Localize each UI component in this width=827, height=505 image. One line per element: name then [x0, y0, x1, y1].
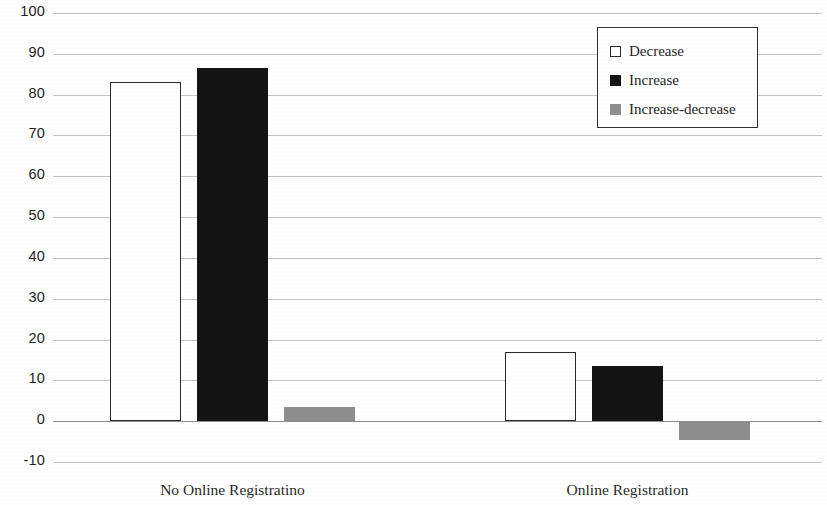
bar-increase-group-2	[592, 366, 663, 421]
y-tick-label-60: 60	[0, 166, 45, 182]
y-tick-label-90: 90	[0, 44, 45, 60]
y-tick-label-50: 50	[0, 207, 45, 223]
x-axis-label-group-1: No Online Registratino	[93, 481, 373, 499]
bar-increase-decrease-group-1	[284, 407, 355, 421]
black-square-icon	[610, 75, 621, 86]
bar-increase-decrease-group-2	[679, 421, 750, 439]
bar-decrease-group-1	[110, 82, 181, 421]
y-tick-label-40: 40	[0, 248, 45, 264]
bar-chart: 1009080706050403020100-10 No Online Regi…	[0, 0, 827, 505]
gridline-100	[53, 13, 822, 14]
gray-square-icon	[610, 104, 621, 115]
legend-item-increase-decrease: Increase-decrease	[610, 95, 757, 124]
y-tick-label-30: 30	[0, 289, 45, 305]
gridline--10	[53, 462, 822, 463]
legend-item-decrease: Decrease	[610, 37, 757, 66]
y-tick-label-0: 0	[0, 411, 45, 427]
x-axis-label-group-2: Online Registration	[488, 481, 768, 499]
chart-legend: Decrease Increase Increase-decrease	[597, 27, 758, 128]
legend-item-increase: Increase	[610, 66, 757, 95]
legend-label-decrease: Decrease	[629, 43, 684, 60]
y-tick-label-20: 20	[0, 330, 45, 346]
bar-increase-group-1	[197, 68, 268, 421]
y-tick-label-80: 80	[0, 85, 45, 101]
legend-label-increase-decrease: Increase-decrease	[629, 101, 736, 118]
y-tick-label--10: -10	[0, 452, 45, 468]
y-tick-label-100: 100	[0, 3, 45, 19]
y-tick-label-70: 70	[0, 125, 45, 141]
legend-label-increase: Increase	[629, 72, 679, 89]
white-square-icon	[610, 46, 621, 57]
bar-decrease-group-2	[505, 352, 576, 421]
y-tick-label-10: 10	[0, 370, 45, 386]
